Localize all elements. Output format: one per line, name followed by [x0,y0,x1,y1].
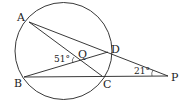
label-D: D [111,43,120,56]
label-B: B [14,77,22,90]
circle [15,3,112,100]
angle-label-Q: 51° [54,54,70,64]
label-Q: Q [78,48,87,61]
segment-BP [24,76,168,77]
label-P: P [171,71,179,84]
angle-arc-P [152,70,153,76]
label-A: A [16,11,26,24]
angle-label-P: 21° [134,66,150,76]
segment-AC [29,22,102,76]
geometry-diagram: A B C D Q P 51° 21° [0,0,189,106]
label-C: C [103,78,111,91]
